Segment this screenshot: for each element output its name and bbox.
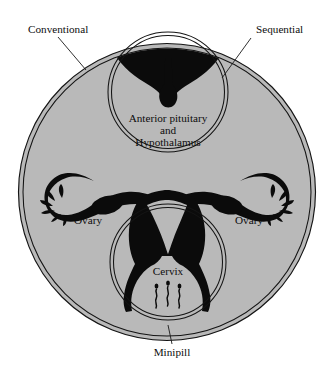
pituitary-label-line3: Hypothalamus — [135, 136, 200, 148]
conventional-leader-line — [58, 37, 86, 70]
pituitary-label-line1: Anterior pituitary — [129, 112, 208, 124]
ovary-label-left: Ovary — [74, 214, 102, 226]
callout-conventional: Conventional — [28, 23, 88, 35]
callout-minipill: Minipill — [154, 346, 191, 358]
anatomy-diagram: Sites of action of oral contraceptives o… — [0, 0, 334, 365]
diagram-canvas: Sites of action of oral contraceptives o… — [0, 0, 334, 365]
cervix-label: Cervix — [153, 265, 184, 277]
pituitary-label-line2: and — [160, 124, 177, 136]
ovary-label-right: Ovary — [235, 214, 263, 226]
callout-sequential: Sequential — [256, 23, 303, 35]
